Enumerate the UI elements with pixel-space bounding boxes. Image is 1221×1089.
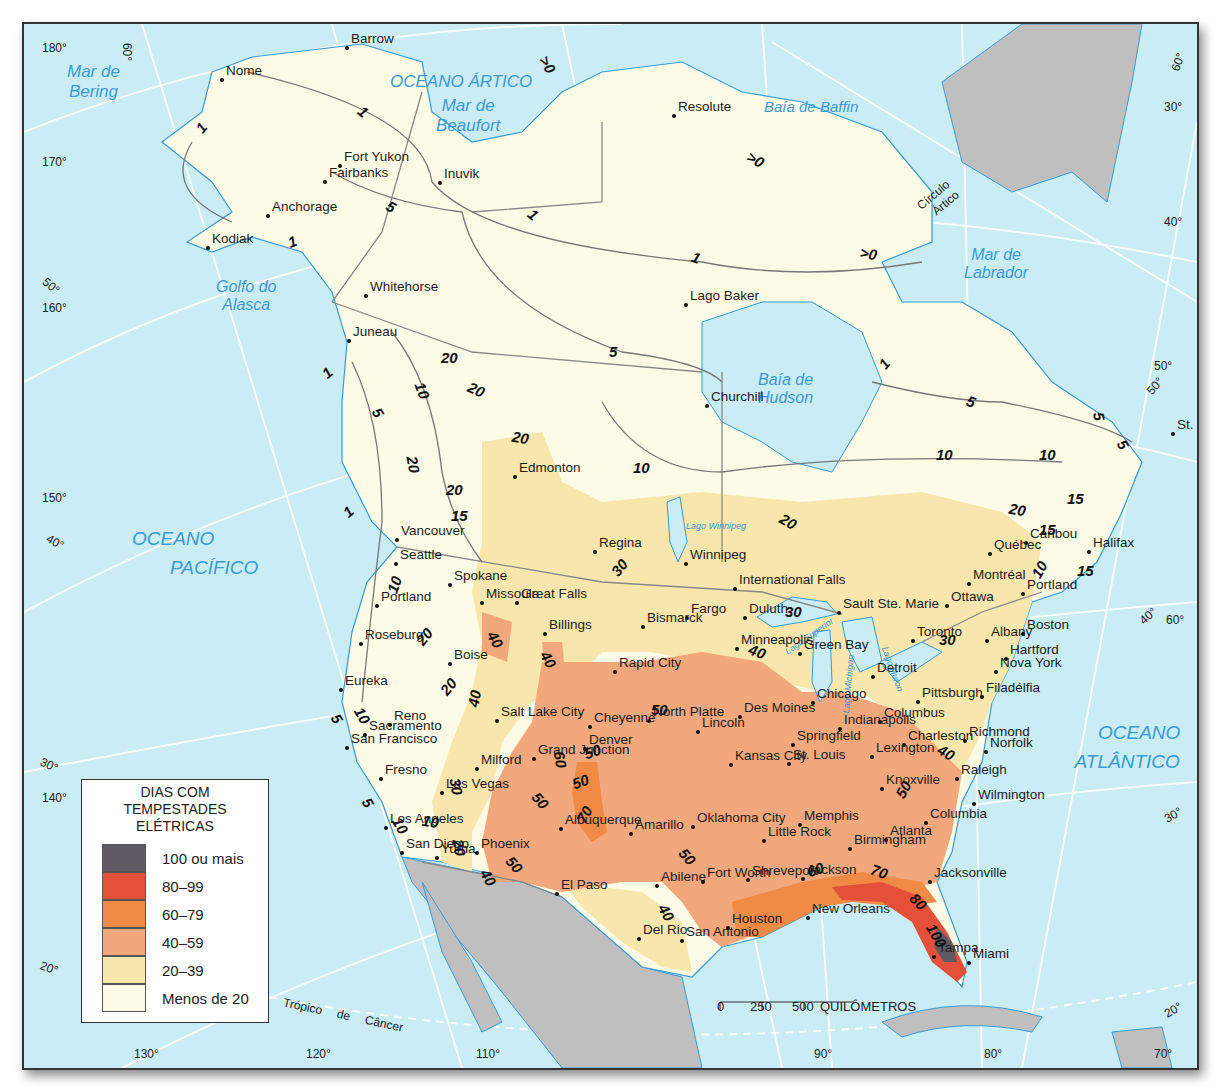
isoline-value: 30 (939, 632, 956, 647)
city-marker (400, 851, 404, 855)
city-marker (1171, 432, 1175, 436)
legend-label: 80–99 (162, 878, 204, 895)
label-pacific-ocean: OCEANOPACÍFICO (132, 528, 258, 579)
city-marker (994, 670, 998, 674)
city-marker (762, 839, 766, 843)
city-marker (637, 937, 641, 941)
city-label: Inuvik (444, 167, 479, 181)
label-arctic-ocean: OCEANO ÁRTICO (390, 72, 532, 92)
city-marker (967, 961, 971, 965)
city-marker (685, 616, 689, 620)
degree-label: 120° (306, 1048, 331, 1060)
label-atlantic-ocean: OCEANOATLÂNTICO (1074, 722, 1180, 773)
city-label: Portland (381, 590, 431, 604)
city-marker (705, 404, 709, 408)
city-marker (555, 892, 559, 896)
city-marker (837, 611, 841, 615)
city-marker (729, 763, 733, 767)
city-label: St. Louis (793, 748, 846, 762)
city-marker (672, 114, 676, 118)
city-marker (733, 587, 737, 591)
city-label: Lago Baker (690, 289, 759, 303)
city-marker (955, 777, 959, 781)
city-label: Juneau (353, 325, 397, 339)
city-marker (206, 246, 210, 250)
map-frame: Mar deBering OCEANO ÁRTICO Mar deBeaufor… (22, 22, 1199, 1070)
city-label: Montréal (973, 568, 1026, 582)
city-label: El Paso (561, 878, 608, 892)
city-label: Ottawa (951, 590, 994, 604)
scale-tick-0: 0 (717, 1000, 724, 1013)
degree-label: 60° (121, 43, 133, 61)
isoline-value: 40 (466, 689, 484, 708)
city-marker (848, 847, 852, 851)
city-label: New Orleans (812, 902, 890, 916)
city-label: Cheyenne (594, 711, 656, 725)
degree-label: 170° (42, 156, 67, 168)
city-marker (932, 955, 936, 959)
city-marker (448, 583, 452, 587)
city-marker (735, 647, 739, 651)
city-label: Raleigh (961, 763, 1007, 777)
city-label: Regina (599, 536, 642, 550)
legend-label: 20–39 (162, 962, 204, 979)
isoline-value: >0 (859, 245, 878, 263)
city-label: Salt Lake City (501, 705, 584, 719)
city-label: Nome (226, 64, 262, 78)
degree-label: 90° (814, 1048, 832, 1060)
city-marker (559, 827, 563, 831)
city-label: Eureka (345, 674, 388, 688)
city-label: Jacksonville (934, 866, 1007, 880)
city-marker (655, 884, 659, 888)
city-label: San Antonio (686, 925, 759, 939)
isoline-value: 10 (421, 813, 440, 831)
city-marker (388, 723, 392, 727)
city-marker (629, 832, 633, 836)
degree-label: 150° (42, 492, 67, 504)
city-marker (787, 762, 791, 766)
legend-label: Menos de 20 (162, 990, 249, 1007)
city-marker (375, 604, 379, 608)
city-marker (647, 719, 651, 723)
legend-label: 100 ou mais (162, 850, 244, 867)
city-marker (339, 688, 343, 692)
city-marker (448, 662, 452, 666)
degree-label: 50° (1154, 360, 1172, 372)
city-marker (743, 616, 747, 620)
city-marker (532, 757, 536, 761)
city-marker (871, 675, 875, 679)
isoline-value: 60 (552, 750, 570, 769)
degree-label: 70° (1154, 1048, 1172, 1060)
scale-tick-500: 500 (792, 1000, 814, 1013)
isoline-value: 20 (446, 482, 463, 497)
isoline-value: 30 (785, 604, 802, 619)
city-marker (394, 562, 398, 566)
city-label: Anchorage (272, 200, 337, 214)
city-label: Fort Worth (707, 866, 771, 880)
city-label: Fairbanks (329, 166, 388, 180)
degree-label: 30° (1164, 101, 1182, 113)
city-marker (911, 639, 915, 643)
isoline-value: 20 (441, 350, 458, 365)
city-marker (985, 639, 989, 643)
city-marker (588, 725, 592, 729)
city-marker (435, 856, 439, 860)
city-label: Columbus (884, 706, 945, 720)
isoline-value: 20 (405, 455, 423, 474)
isoline-value: 50 (651, 702, 668, 717)
city-marker (345, 746, 349, 750)
city-marker (984, 750, 988, 754)
city-marker (684, 562, 688, 566)
legend-swatch (102, 872, 146, 900)
city-marker (475, 851, 479, 855)
city-label: Fargo (691, 602, 726, 616)
isoline-value: 15 (1039, 522, 1056, 537)
degree-label: 130° (134, 1048, 159, 1060)
city-marker (798, 823, 802, 827)
city-label: Chicago (817, 687, 867, 701)
city-label: Phoenix (481, 837, 530, 851)
legend-label: 60–79 (162, 906, 204, 923)
city-label: Columbia (930, 807, 987, 821)
isoline-value: 20 (451, 838, 469, 857)
city-marker (878, 720, 882, 724)
